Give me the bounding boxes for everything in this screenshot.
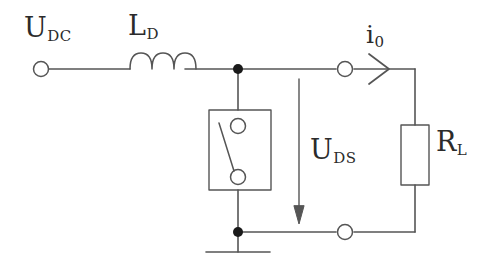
inductor-symbol: L bbox=[128, 10, 146, 41]
inductor-coil bbox=[130, 53, 196, 69]
return-terminal-circle bbox=[338, 225, 353, 240]
schematic-drawing bbox=[0, 0, 495, 271]
switch-bottom-contact bbox=[231, 170, 246, 185]
source-voltage-label: UDC bbox=[24, 14, 72, 44]
switch-top-contact bbox=[231, 119, 246, 134]
source-voltage-symbol: U bbox=[24, 12, 47, 43]
drain-source-voltage-subscript: DS bbox=[333, 149, 356, 167]
output-current-symbol: i bbox=[366, 20, 375, 49]
circuit-diagram-canvas: UDC LD i0 UDS RL bbox=[0, 0, 495, 271]
load-resistor-symbol: R bbox=[436, 126, 457, 157]
load-resistor-subscript: L bbox=[457, 141, 467, 159]
inductor-label: LD bbox=[128, 12, 159, 42]
inductor-subscript: D bbox=[146, 25, 159, 43]
load-resistor-box bbox=[401, 125, 429, 185]
output-current-label: i0 bbox=[366, 22, 385, 50]
drain-source-voltage-symbol: U bbox=[310, 134, 333, 165]
drain-source-voltage-label: UDS bbox=[310, 136, 357, 166]
top-junction-dot bbox=[233, 64, 243, 74]
output-current-subscript: 0 bbox=[375, 33, 385, 51]
load-resistor-label: RL bbox=[436, 128, 467, 158]
output-terminal-circle bbox=[338, 62, 353, 77]
ground-junction-dot bbox=[233, 227, 243, 237]
source-voltage-subscript: DC bbox=[47, 27, 72, 45]
input-terminal-circle bbox=[34, 62, 49, 77]
voltage-arrow-head bbox=[294, 206, 304, 224]
